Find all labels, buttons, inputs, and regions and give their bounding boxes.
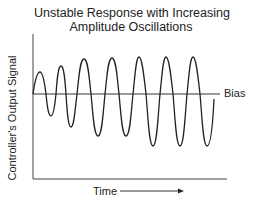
plot-area: [0, 0, 254, 205]
bias-label: Bias: [224, 87, 245, 99]
x-axis-label: Time: [93, 185, 117, 197]
arrow-head-icon: [178, 189, 184, 194]
y-axis-label: Controller's Output Signal: [6, 56, 18, 181]
output-signal-curve: [33, 57, 214, 146]
